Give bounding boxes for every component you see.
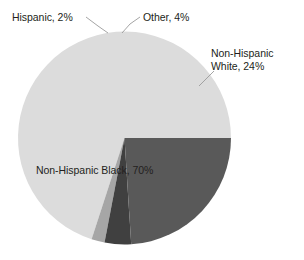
pie-slices: [18, 32, 231, 245]
pie-slice-non-hispanic-white[interactable]: [125, 138, 232, 244]
pie-label-non-hispanic-black: Non-Hispanic Black, 70%: [36, 164, 153, 177]
pie-chart: Hispanic, 2% Other, 4% Non-Hispanic Whit…: [0, 0, 304, 260]
pie-label-non-hispanic-white-line1: Non-Hispanic: [211, 47, 273, 59]
pie-label-non-hispanic-white-line2: White, 24%: [211, 60, 264, 72]
pie-label-other: Other, 4%: [143, 11, 189, 24]
leader-line-hispanic: [86, 17, 108, 33]
pie-chart-canvas: [0, 0, 304, 260]
pie-label-other-text: Other, 4%: [143, 11, 189, 23]
pie-label-non-hispanic-black-text: Non-Hispanic Black, 70%: [36, 164, 153, 176]
pie-label-hispanic-text: Hispanic, 2%: [12, 11, 73, 23]
pie-label-hispanic: Hispanic, 2%: [12, 11, 73, 24]
pie-label-non-hispanic-white: Non-Hispanic White, 24%: [211, 47, 303, 72]
leader-line-other: [122, 17, 140, 33]
